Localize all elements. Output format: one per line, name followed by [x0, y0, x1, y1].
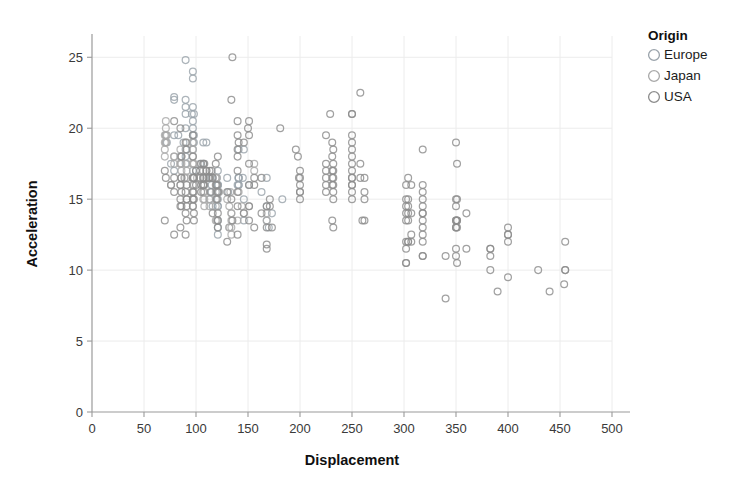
data-point: [329, 217, 336, 224]
data-point: [214, 231, 221, 238]
x-tick-label: 0: [88, 421, 95, 436]
data-point: [182, 210, 189, 217]
legend-item-usa[interactable]: USA: [649, 89, 692, 104]
data-point: [258, 189, 265, 196]
legend-item-japan[interactable]: Japan: [649, 68, 701, 83]
data-point: [292, 146, 299, 153]
y-tick-label: 25: [69, 50, 83, 65]
x-axis-title: Displacement: [305, 452, 399, 468]
data-point: [405, 174, 412, 181]
data-point: [419, 253, 426, 260]
data-point: [330, 224, 337, 231]
data-point: [228, 210, 235, 217]
data-point: [189, 118, 196, 125]
data-point: [234, 118, 241, 125]
x-tick-label: 250: [341, 421, 363, 436]
data-point: [442, 253, 449, 260]
data-point: [234, 153, 241, 160]
data-point: [361, 174, 368, 181]
data-point: [487, 253, 494, 260]
legend-marker-icon: [649, 50, 660, 61]
data-point: [419, 203, 426, 210]
data-point: [454, 160, 461, 167]
data-point: [226, 203, 233, 210]
data-point: [323, 160, 330, 167]
plot-canvas: 0510152025050100150200250300350400450500…: [0, 0, 735, 490]
data-point: [357, 89, 364, 96]
data-point: [189, 75, 196, 82]
data-point: [224, 238, 231, 245]
data-point: [419, 224, 426, 231]
data-point: [189, 153, 196, 160]
x-tick-label: 300: [393, 421, 415, 436]
data-point: [327, 111, 334, 118]
data-point: [224, 174, 231, 181]
legend-marker-icon: [649, 92, 660, 103]
data-point: [189, 68, 196, 75]
data-point: [175, 132, 182, 139]
data-point: [419, 189, 426, 196]
data-point: [182, 96, 189, 103]
data-point: [357, 160, 364, 167]
data-point: [419, 231, 426, 238]
data-point: [161, 146, 168, 153]
data-point: [323, 132, 330, 139]
data-point: [161, 217, 168, 224]
data-point: [419, 146, 426, 153]
x-tick-label: 50: [137, 421, 151, 436]
data-point: [329, 139, 336, 146]
data-point: [251, 167, 258, 174]
x-tick-label: 200: [289, 421, 311, 436]
data-point: [171, 167, 178, 174]
data-point: [171, 174, 178, 181]
data-point: [171, 118, 178, 125]
data-point: [235, 174, 242, 181]
data-point: [330, 160, 337, 167]
data-point: [182, 104, 189, 111]
scatter-chart: 0510152025050100150200250300350400450500…: [0, 0, 735, 490]
x-tick-label: 100: [185, 421, 207, 436]
data-point: [251, 224, 258, 231]
data-point: [463, 245, 470, 252]
data-point: [240, 210, 247, 217]
data-point: [168, 182, 175, 189]
data-point: [182, 231, 189, 238]
data-point: [228, 96, 235, 103]
x-tick-label: 500: [601, 421, 623, 436]
data-point: [263, 241, 270, 248]
data-point: [162, 174, 169, 181]
data-point: [487, 245, 494, 252]
y-axis-title: Acceleration: [24, 180, 40, 267]
y-tick-label: 5: [76, 334, 83, 349]
data-point: [419, 182, 426, 189]
data-point: [171, 231, 178, 238]
y-tick-label: 15: [69, 192, 83, 207]
data-point: [246, 132, 253, 139]
data-point: [162, 118, 169, 125]
data-point: [234, 167, 241, 174]
legend: OriginEuropeJapanUSA: [648, 28, 708, 104]
y-tick-label: 0: [76, 405, 83, 420]
data-point: [442, 295, 449, 302]
data-point: [251, 174, 258, 181]
data-point: [562, 238, 569, 245]
data-point: [323, 189, 330, 196]
legend-label: Europe: [664, 47, 708, 62]
data-point: [329, 153, 336, 160]
data-point: [419, 238, 426, 245]
legend-marker-icon: [649, 71, 660, 82]
data-point: [330, 146, 337, 153]
gridlines: [92, 36, 612, 412]
y-tick-label: 20: [69, 121, 83, 136]
x-tick-label: 350: [445, 421, 467, 436]
x-tick-label: 450: [549, 421, 571, 436]
data-point: [214, 224, 221, 231]
data-point: [454, 260, 461, 267]
data-point: [246, 203, 253, 210]
axes-layer: 0510152025050100150200250300350400450500: [69, 34, 630, 436]
legend-item-europe[interactable]: Europe: [649, 47, 708, 62]
data-point: [408, 231, 415, 238]
legend-label: USA: [664, 89, 692, 104]
data-point: [419, 210, 426, 217]
data-point: [546, 288, 553, 295]
